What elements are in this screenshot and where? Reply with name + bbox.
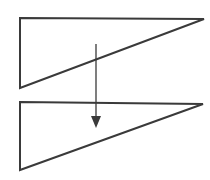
bottom-triangle: [20, 102, 203, 170]
translation-diagram: [0, 0, 210, 180]
top-triangle: [20, 18, 204, 88]
down-arrow-icon: [91, 44, 101, 128]
